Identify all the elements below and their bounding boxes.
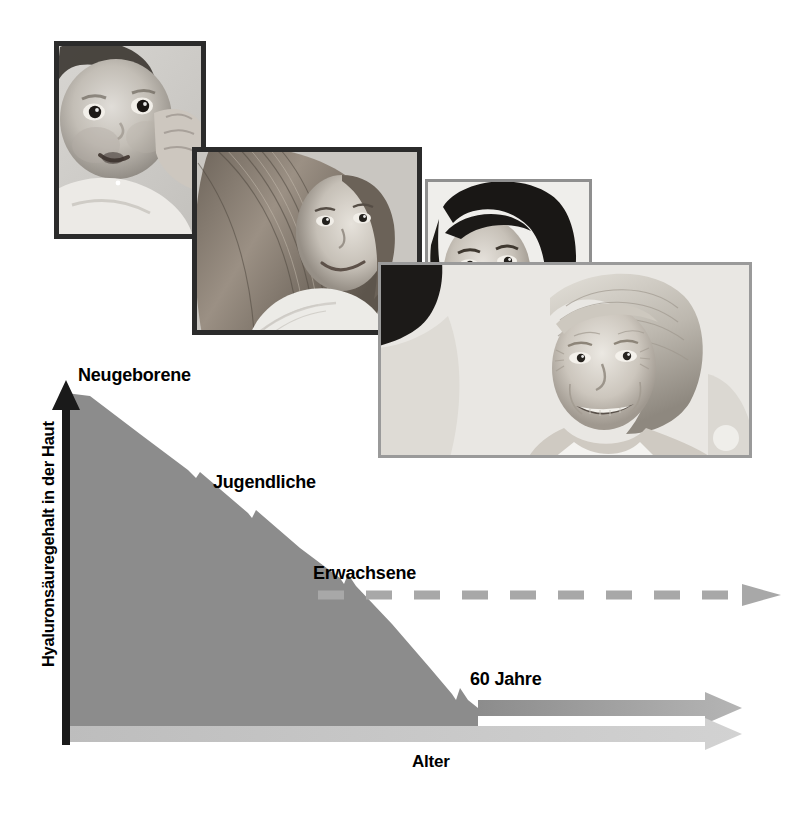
label-adolescent: Jugendliche xyxy=(213,472,316,493)
x-axis-label: Alter xyxy=(412,752,450,772)
photo-infant xyxy=(54,41,206,239)
adult-dashed-arrow xyxy=(318,584,781,606)
label-sixty-years: 60 Jahre xyxy=(470,669,541,690)
y-axis-label: Hyaluronsäuregehalt in der Haut xyxy=(39,442,58,667)
hyaluronic-decline-area xyxy=(66,393,478,726)
figure-root: Neugeborene Jugendliche Erwachsene 60 Ja… xyxy=(0,0,801,815)
label-adult: Erwachsene xyxy=(313,563,416,584)
label-newborn: Neugeborene xyxy=(78,365,191,386)
post-sixty-plateau-arrow xyxy=(478,692,742,724)
photo-infant-image xyxy=(54,41,206,239)
